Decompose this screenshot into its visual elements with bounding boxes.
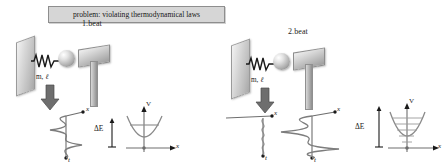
mass-ball-icon: [273, 53, 290, 70]
spring-icon: [31, 54, 61, 68]
spring-icon: [246, 57, 276, 71]
panel-second-beat: 2.beat m, ℓ: [215, 0, 446, 168]
oscillation-plot-first-beat: x t: [40, 108, 96, 164]
axis-label-x: x: [86, 105, 89, 113]
energy-gap-label-second-beat: ΔE: [355, 122, 364, 131]
panel-first-beat: 1.beat m, ℓ: [0, 0, 215, 168]
hammer-handle-icon: [90, 61, 98, 107]
hammer-handle-icon: [305, 64, 313, 110]
potential-well-first-beat: V x: [118, 104, 180, 162]
energy-gap-indicator-first-beat: [108, 118, 116, 150]
axis-label-v: V: [409, 97, 414, 105]
spring-mass-hammer-apparatus: m, ℓ: [10, 33, 130, 111]
oscillation-plot-small-amplitude: x t: [224, 110, 282, 162]
spring-mass-hammer-apparatus: m, ℓ: [225, 36, 345, 114]
mass-length-text: m,: [251, 76, 260, 84]
energy-gap-label-first-beat: ΔE: [94, 124, 103, 133]
axis-label-x: x: [438, 142, 441, 150]
axis-label-v: V: [146, 100, 151, 108]
axis-label-x: x: [176, 142, 179, 150]
length-symbol: ℓ: [260, 76, 263, 84]
potential-well-second-beat: V x: [383, 102, 446, 162]
mass-length-label: m, ℓ: [36, 73, 48, 81]
mass-ball-icon: [58, 50, 75, 67]
axis-label-x: x: [337, 105, 340, 113]
energy-gap-indicator-second-beat: [375, 106, 383, 150]
panel-title-second-beat: 2.beat: [288, 27, 308, 36]
axis-label-t: t: [68, 156, 70, 164]
panel-title-first-beat: 1.beat: [82, 19, 102, 28]
mass-length-text: m,: [36, 73, 45, 81]
axis-label-t: t: [314, 156, 316, 164]
axis-label-t: t: [265, 154, 267, 162]
oscillation-plot-large-amplitude: x t: [277, 108, 349, 164]
length-symbol: ℓ: [45, 73, 48, 81]
figure-canvas: problem: violating thermodynamical laws …: [0, 0, 446, 168]
mass-length-label: m, ℓ: [251, 76, 263, 84]
